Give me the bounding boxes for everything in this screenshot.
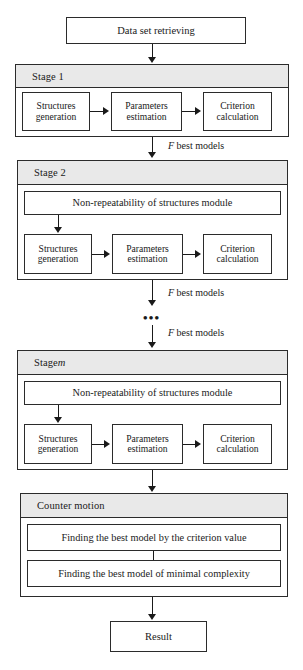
stage-m-nonrepeatability-box: Non-repeatability of structures module [24, 381, 281, 405]
box-line-1: Structures [37, 101, 76, 111]
box-line-2: generation [36, 112, 77, 122]
finding-best-by-criterion-label: Finding the best model by the criterion … [61, 532, 246, 543]
arrowhead-sm-nonrepeat-to-gen [54, 417, 62, 423]
stage-2-header: Stage 2 [18, 161, 287, 185]
box-line-2: generation [38, 254, 79, 264]
box-line-2: calculation [216, 112, 258, 122]
stage-m-structures-generation-box: Structures generation [24, 424, 92, 464]
counter-motion-header: Counter motion [21, 494, 287, 518]
edge-label-text: best models [174, 327, 224, 338]
stage-2-criterion-calculation-box: Criterion calculation [203, 234, 272, 274]
box-line-2: calculation [216, 444, 258, 454]
stage-m-header: Stage m [18, 351, 287, 375]
edge-label-stage1-to-stage2: F best models [168, 140, 224, 151]
stages-ellipsis: ••• [143, 311, 160, 324]
box-line-2: generation [38, 444, 79, 454]
arrowhead-stagem-to-counter-motion [148, 486, 156, 492]
arrowhead-retrieving-to-stage1 [148, 57, 156, 63]
arrowhead-s2-est-to-crit [195, 250, 201, 258]
stage-m-criterion-calculation-box: Criterion calculation [203, 424, 272, 464]
edge-label-stage2-to-dots: F best models [168, 287, 224, 298]
edge-label-text: best models [174, 140, 224, 151]
flowchart-diagram: Data set retrieving Stage 1 Structures g… [0, 0, 303, 670]
stage-m-parameters-estimation-box: Parameters estimation [112, 424, 183, 464]
stage-m-header-suffix: m [58, 357, 66, 368]
arrowhead-s1-gen-to-est [103, 107, 109, 115]
arrowhead-stage1-to-stage2 [148, 152, 156, 158]
arrowhead-dots-to-stagem [148, 342, 156, 348]
connector-s1-gen-to-est [90, 111, 104, 112]
finding-best-minimal-complexity-box: Finding the best model of minimal comple… [27, 560, 281, 587]
stage-2-structures-generation-box: Structures generation [24, 234, 92, 274]
finding-best-by-criterion-box: Finding the best model by the criterion … [27, 524, 281, 551]
edge-label-text: best models [174, 287, 224, 298]
stage-m-nonrepeatability-label: Non-repeatability of structures module [73, 387, 233, 398]
stage-2-nonrepeatability-label: Non-repeatability of structures module [73, 197, 233, 208]
finding-best-minimal-complexity-label: Finding the best model of minimal comple… [58, 568, 250, 579]
stage-1-header: Stage 1 [16, 65, 288, 88]
arrowhead-stage2-to-dots [148, 300, 156, 306]
box-line-2: calculation [216, 254, 258, 264]
connector-counter-row1-to-row2 [153, 551, 154, 560]
connector-s1-est-to-crit [182, 111, 196, 112]
data-set-retrieving-box: Data set retrieving [66, 17, 246, 44]
arrowhead-s2-nonrepeat-to-gen [54, 227, 62, 233]
box-line-2: estimation [127, 112, 167, 122]
counter-motion-header-label: Counter motion [37, 500, 105, 511]
box-line-2: estimation [128, 254, 168, 264]
stage-2-header-label: Stage 2 [34, 167, 66, 178]
box-line-1: Criterion [220, 101, 255, 111]
stage-m-header-label: Stage [34, 357, 58, 368]
arrowhead-s2-gen-to-est [104, 250, 110, 258]
stage-2-nonrepeatability-box: Non-repeatability of structures module [24, 191, 281, 215]
arrowhead-counter-motion-to-result [148, 614, 156, 620]
arrowhead-sm-est-to-crit [195, 440, 201, 448]
stage-1-header-label: Stage 1 [32, 71, 64, 82]
box-line-2: estimation [128, 444, 168, 454]
edge-label-dots-to-stagem: F best models [168, 327, 224, 338]
stage-1-criterion-calculation-box: Criterion calculation [203, 92, 272, 131]
arrowhead-sm-gen-to-est [104, 440, 110, 448]
data-set-retrieving-label: Data set retrieving [117, 25, 195, 36]
result-label: Result [145, 631, 172, 642]
result-box: Result [110, 621, 207, 652]
connector-stage2-to-dots [152, 280, 153, 302]
stage-1-structures-generation-box: Structures generation [22, 92, 90, 131]
stage-2-parameters-estimation-box: Parameters estimation [112, 234, 183, 274]
arrowhead-s1-est-to-crit [195, 107, 201, 115]
stage-1-parameters-estimation-box: Parameters estimation [111, 92, 182, 131]
box-line-1: Parameters [125, 101, 168, 111]
